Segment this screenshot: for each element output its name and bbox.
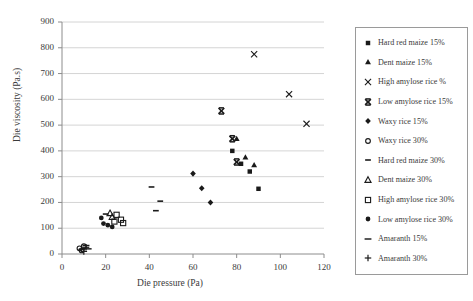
data-point	[234, 159, 240, 165]
y-tick-label: 700	[20, 68, 54, 78]
legend-item-label: Waxy rice 30%	[376, 136, 428, 145]
legend-item: Low amylose rice 15%	[360, 92, 464, 112]
legend-item-label: Dent maize 15%	[376, 58, 432, 67]
legend-item-label: High amylose rice 30%	[376, 195, 454, 204]
x-tick-label: 40	[129, 262, 169, 272]
y-tick-label: 400	[20, 145, 54, 155]
x-axis-title: Die pressure (Pa)	[0, 278, 340, 288]
y-tick-label: 0	[20, 248, 54, 258]
legend-item: High amylose rice 30%	[360, 190, 464, 210]
y-tick-label: 200	[20, 196, 54, 206]
legend-item: Dent maize 30%	[360, 170, 464, 190]
x-tick-label: 100	[260, 262, 300, 272]
data-point	[190, 171, 196, 177]
y-tick-label: 800	[20, 42, 54, 52]
data-point	[251, 51, 257, 57]
legend-item-label: Waxy rice 15%	[376, 117, 428, 126]
legend-item: Amaranth 15%	[360, 229, 464, 249]
data-point	[153, 210, 159, 212]
data-point	[105, 223, 110, 228]
data-point	[219, 108, 225, 114]
triangle-open-icon	[360, 172, 376, 188]
data-point	[101, 221, 106, 226]
data-point	[199, 185, 205, 191]
series-8	[112, 212, 126, 225]
y-tick-label: 300	[20, 171, 54, 181]
x-tick-label: 0	[42, 262, 82, 272]
circle-filled-icon	[360, 211, 376, 227]
legend-item: Hard red maize 30%	[360, 151, 464, 171]
square-filled-icon	[360, 35, 376, 51]
data-point	[242, 154, 248, 159]
x-bold-icon	[360, 94, 376, 110]
data-point	[286, 91, 292, 97]
data-point	[149, 186, 155, 188]
legend-item-label: Low amylose rice 30%	[376, 215, 453, 224]
data-point	[303, 121, 309, 127]
legend-item: Hard red maize 15%	[360, 33, 464, 53]
legend-item: Dent maize 15%	[360, 53, 464, 73]
y-tick-label: 100	[20, 222, 54, 232]
series-2	[251, 51, 310, 127]
data-point	[208, 199, 214, 205]
data-point	[230, 149, 234, 153]
x-tick-label: 80	[217, 262, 257, 272]
legend-item: Waxy rice 30%	[360, 131, 464, 151]
chart-legend: Hard red maize 15%Dent maize 15%High amy…	[355, 27, 468, 275]
dash-small-icon	[360, 152, 376, 168]
data-point	[99, 216, 104, 221]
square-open-icon	[360, 192, 376, 208]
legend-item-label: Hard red maize 30%	[376, 156, 445, 165]
data-point	[256, 187, 260, 191]
y-tick-label: 900	[20, 16, 54, 26]
y-tick-label: 600	[20, 93, 54, 103]
data-point	[251, 162, 257, 167]
y-tick-label: 500	[20, 119, 54, 129]
legend-item: Amaranth 30%	[360, 249, 464, 269]
x-tick-label: 120	[304, 262, 344, 272]
series-4	[190, 171, 213, 206]
legend-item-label: Amaranth 30%	[376, 254, 427, 263]
plot-area: Die viscosity (Pa.s) Die pressure (Pa) 0…	[0, 0, 340, 301]
data-point	[157, 200, 163, 202]
triangle-filled-icon	[360, 54, 376, 70]
dash-wide-icon	[360, 231, 376, 247]
legend-item-label: Amaranth 15%	[376, 234, 427, 243]
legend-item-label: Hard red maize 15%	[376, 38, 445, 47]
legend-item-label: High amylose rice %	[376, 77, 446, 86]
legend-item: Waxy rice 15%	[360, 111, 464, 131]
circle-open-icon	[360, 133, 376, 149]
chart-figure: Die viscosity (Pa.s) Die pressure (Pa) 0…	[0, 0, 473, 301]
diamond-filled-icon	[360, 113, 376, 129]
legend-item-label: Low amylose rice 15%	[376, 97, 453, 106]
legend-item: Low amylose rice 30%	[360, 209, 464, 229]
data-point	[110, 225, 115, 230]
legend-item: High amylose rice %	[360, 72, 464, 92]
x-tick-label: 60	[173, 262, 213, 272]
legend-item-label: Dent maize 30%	[376, 175, 432, 184]
data-point	[248, 169, 252, 173]
series-6	[103, 186, 163, 215]
x-thin-icon	[360, 74, 376, 90]
x-tick-label: 20	[86, 262, 126, 272]
plus-icon	[360, 250, 376, 266]
data-point	[229, 136, 235, 142]
